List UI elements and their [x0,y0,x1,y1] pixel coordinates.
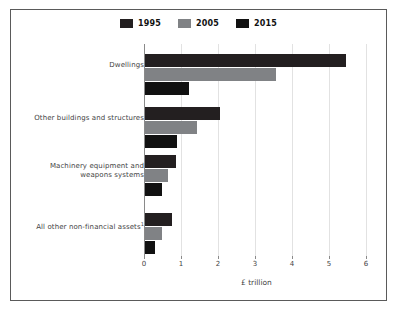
bar-2005[interactable] [145,227,162,240]
category-label-line1: Other buildings and structures [34,114,144,122]
legend-swatch-1995 [120,19,133,28]
category-label-dwellings: Dwellings [16,61,144,70]
category-label-line1: All other non-financial assets [36,223,141,231]
x-tick-mark-5 [329,256,330,259]
bar-1995[interactable] [145,155,176,168]
x-tick-mark-2 [218,256,219,259]
x-tick-label-3: 3 [247,260,263,268]
x-tick-mark-4 [292,256,293,259]
legend-swatch-2005 [178,19,191,28]
legend-label-1995: 1995 [138,19,161,28]
x-tick-mark-3 [255,256,256,259]
bar-group [145,107,367,148]
bar-group [145,213,367,254]
legend-label-2005: 2005 [196,19,219,28]
x-tick-label-0: 0 [136,260,152,268]
bar-1995[interactable] [145,54,346,67]
x-axis-title: £ trillion [241,278,361,287]
category-label-other-buildings: Other buildings and structures [16,114,144,123]
bar-2015[interactable] [145,183,162,196]
category-label-all-other: All other non-financial assets1 [16,220,144,232]
legend-swatch-2015 [236,19,249,28]
x-tick-mark-0 [144,256,145,259]
x-tick-label-4: 4 [284,260,300,268]
bar-1995[interactable] [145,213,172,226]
x-tick-label-5: 5 [321,260,337,268]
x-tick-label-2: 2 [210,260,226,268]
category-label-machinery: Machinery equipment and weapons systems [16,162,144,180]
category-axis-labels: Dwellings Other buildings and structures… [11,44,144,256]
bar-2015[interactable] [145,241,155,254]
bar-2005[interactable] [145,68,276,81]
legend-item-2015[interactable]: 2015 [236,19,277,28]
bar-1995[interactable] [145,107,220,120]
legend-label-2015: 2015 [254,19,277,28]
chart-frame: 1995 2005 2015 Dwellings Other buildings… [10,9,387,301]
x-tick-mark-6 [366,256,367,259]
x-tick-label-6: 6 [358,260,374,268]
legend-item-2005[interactable]: 2005 [178,19,219,28]
bar-2015[interactable] [145,82,189,95]
bar-group [145,54,367,95]
x-axis: 0123456 [144,256,366,276]
x-tick-label-1: 1 [173,260,189,268]
chart-legend: 1995 2005 2015 [11,19,386,28]
plot-area [144,44,366,256]
bar-group [145,155,367,196]
bar-2005[interactable] [145,121,197,134]
x-tick-mark-1 [181,256,182,259]
category-label-line2: weapons systems [80,171,144,179]
category-label-line1: Machinery equipment and [50,162,144,170]
bar-2015[interactable] [145,135,177,148]
category-label-line1: Dwellings [109,61,144,69]
legend-item-1995[interactable]: 1995 [120,19,161,28]
bar-2005[interactable] [145,169,168,182]
